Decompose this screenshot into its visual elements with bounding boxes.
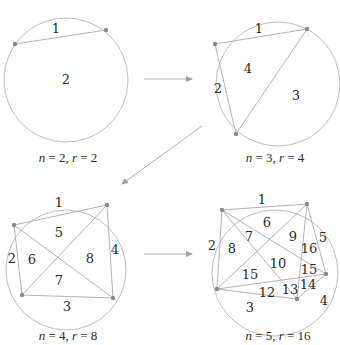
region-label: 2 (214, 81, 222, 96)
point-marker (234, 132, 238, 136)
region-label: 8 (228, 241, 236, 256)
arrows (122, 79, 202, 254)
point-marker (111, 296, 115, 300)
region-label: 6 (28, 252, 36, 267)
region-label: 6 (263, 215, 271, 230)
region-label: 9 (289, 229, 297, 244)
caption-r-value: = 4 (284, 150, 305, 165)
region-label: 15 (301, 262, 318, 277)
caption: n = 5, r = 16 (245, 328, 311, 343)
region-label: 1 (255, 21, 263, 36)
point-marker (105, 203, 109, 207)
region-label: 5 (55, 225, 63, 240)
point-marker (220, 208, 224, 212)
region-label: 13 (282, 282, 299, 297)
caption: n = 3, r = 4 (246, 150, 305, 165)
region-label: 10 (270, 256, 287, 271)
point-marker (20, 293, 24, 297)
point-marker (13, 42, 17, 46)
region-label: 15 (242, 267, 259, 282)
region-label: 2 (208, 238, 216, 253)
caption-r-value: = 16 (284, 328, 311, 343)
diagram-n5: 16795281610151514121343n = 5, r = 16 (208, 192, 338, 344)
caption-n-value: = 3, (252, 150, 279, 165)
region-label: 16 (301, 241, 318, 256)
region-label: 2 (8, 251, 16, 266)
caption-n-value: = 2, (45, 150, 72, 165)
caption-r-value: = 2 (77, 150, 97, 165)
region-label: 1 (258, 192, 266, 207)
point-marker (324, 272, 328, 276)
point-marker (213, 42, 217, 46)
region-label: 7 (55, 273, 63, 288)
region-label: 8 (86, 251, 94, 266)
point-marker (215, 287, 219, 291)
diagram-n3: 1243n = 3, r = 4 (213, 21, 340, 166)
point-marker (305, 27, 309, 31)
chord-line (236, 29, 307, 134)
diagrams: 12n = 2, r = 21243n = 3, r = 412658473n … (4, 18, 340, 343)
region-label: 3 (246, 300, 254, 315)
point-marker (305, 202, 309, 206)
chord-line (217, 210, 222, 289)
point-marker (104, 28, 108, 32)
region-label: 1 (52, 21, 60, 36)
region-label: 4 (244, 61, 252, 76)
point-marker (295, 297, 299, 301)
region-label: 14 (300, 277, 317, 292)
region-label: 5 (319, 230, 327, 245)
region-label: 3 (292, 88, 300, 103)
region-label: 7 (245, 229, 253, 244)
caption-r-value: = 8 (77, 328, 97, 343)
caption: n = 2, r = 2 (39, 150, 98, 165)
caption-n-value: = 4, (45, 328, 72, 343)
region-label: 12 (259, 285, 276, 300)
circle-regions-diagram: 12n = 2, r = 21243n = 3, r = 412658473n … (0, 0, 340, 345)
point-marker (12, 223, 16, 227)
region-label: 4 (111, 242, 119, 257)
diagram-n2: 12n = 2, r = 2 (4, 18, 128, 165)
diagram-n4: 12658473n = 4, r = 8 (6, 195, 126, 344)
chord-line (15, 30, 106, 44)
region-label: 3 (63, 299, 71, 314)
region-label: 4 (320, 293, 328, 308)
caption-n-value: = 5, (252, 328, 279, 343)
caption: n = 4, r = 8 (39, 328, 98, 343)
region-label: 1 (55, 195, 63, 210)
region-label: 2 (62, 72, 70, 87)
arrow-n3-to-n4-icon (122, 126, 202, 184)
